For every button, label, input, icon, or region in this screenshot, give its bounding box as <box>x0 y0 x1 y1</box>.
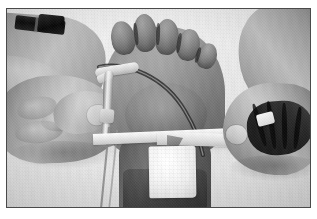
gauze-dressing <box>149 146 197 199</box>
photo-canvas <box>7 9 310 207</box>
photo-frame <box>6 8 311 208</box>
right-hand-shadow <box>229 155 310 181</box>
tubing-connector <box>99 108 114 123</box>
gauze-weave-texture <box>149 146 197 199</box>
screenshot-root <box>0 0 317 219</box>
